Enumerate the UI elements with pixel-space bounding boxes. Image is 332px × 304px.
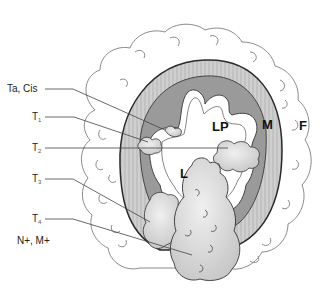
label-t1: T1 bbox=[32, 112, 41, 125]
label-t3: T3 bbox=[32, 174, 41, 187]
diagram-canvas bbox=[0, 0, 332, 304]
region-label-l: L bbox=[180, 167, 188, 180]
region-label-f: F bbox=[299, 119, 307, 132]
label-t2: T2 bbox=[32, 143, 41, 156]
label-ta-cis: Ta, Cis bbox=[7, 84, 38, 94]
region-label-m: M bbox=[262, 118, 273, 131]
region-label-lp: LP bbox=[212, 120, 229, 133]
label-n-m: N+, M+ bbox=[17, 236, 50, 246]
staging-diagram: Ta, Cis T1 T2 T3 T4 N+, M+ LP M F L bbox=[0, 0, 332, 304]
label-t4: T4 bbox=[32, 214, 41, 227]
